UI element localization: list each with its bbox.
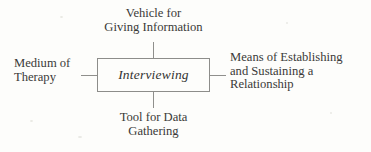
- connector-line-bottom: [153, 92, 154, 108]
- center-node-label: Interviewing: [118, 67, 189, 83]
- connector-line-left: [81, 75, 97, 76]
- connector-line-right: [210, 75, 226, 76]
- node-label-top: Vehicle for Giving Information: [0, 7, 307, 34]
- diagram-canvas: Interviewing Vehicle for Giving Informat…: [0, 0, 371, 152]
- node-label-left-line-1: Medium of: [14, 57, 70, 71]
- node-label-right-line-3: Relationship: [230, 78, 343, 92]
- node-label-bottom-line-2: Gathering: [0, 125, 307, 139]
- node-label-right-line-1: Means of Establishing: [230, 51, 343, 65]
- scan-speckle: [330, 112, 332, 114]
- node-label-top-line-2: Giving Information: [0, 21, 307, 35]
- node-label-right-line-2: and Sustaining a: [230, 65, 343, 79]
- node-label-left: Medium of Therapy: [14, 57, 70, 84]
- node-label-bottom: Tool for Data Gathering: [0, 111, 307, 138]
- node-label-left-line-2: Therapy: [14, 71, 70, 85]
- node-label-bottom-line-1: Tool for Data: [0, 111, 307, 125]
- node-label-right: Means of Establishing and Sustaining a R…: [230, 51, 343, 92]
- center-node-interviewing: Interviewing: [97, 58, 210, 92]
- connector-line-top: [153, 42, 154, 58]
- node-label-top-line-1: Vehicle for: [0, 7, 307, 21]
